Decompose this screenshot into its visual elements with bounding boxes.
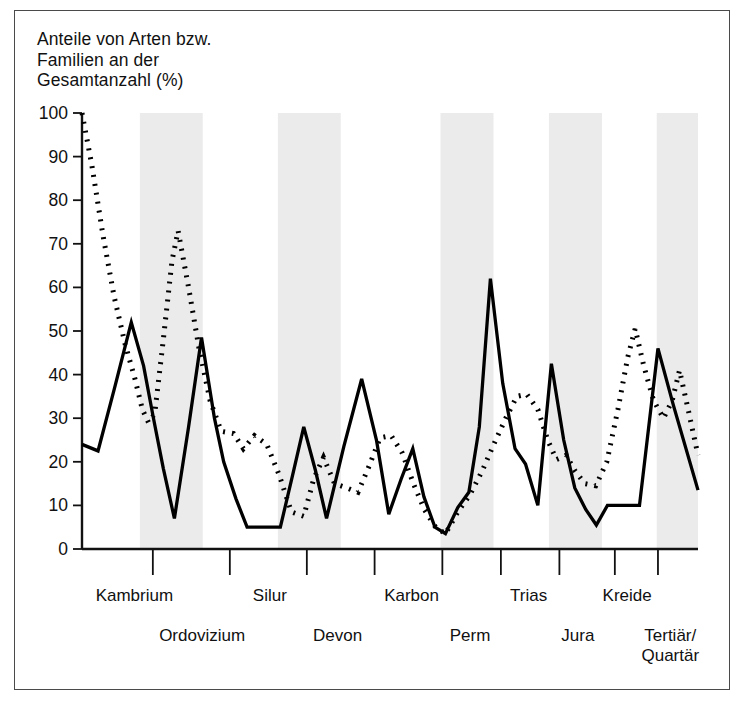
y-tick-label-100: 100: [39, 103, 68, 123]
y-tick-label-50: 50: [49, 321, 69, 341]
y-tick-label-0: 0: [58, 539, 68, 559]
period-label-devon: Devon: [313, 626, 362, 645]
period-shade-band-1: [278, 113, 341, 549]
y-tick-label-60: 60: [49, 277, 69, 297]
period-label-ordovizium: Ordovizium: [159, 626, 245, 645]
extinction-line-chart: 0102030405060708090100KambriumSilurKarbo…: [15, 11, 731, 691]
period-shade-band-4: [657, 113, 698, 549]
y-tick-label-40: 40: [49, 365, 69, 385]
y-tick-label-80: 80: [49, 190, 69, 210]
y-tick-label-10: 10: [49, 495, 69, 515]
y-tick-label-90: 90: [49, 147, 69, 167]
period-label-silur: Silur: [253, 586, 287, 605]
chart-plot-area: 0102030405060708090100KambriumSilurKarbo…: [15, 11, 731, 691]
period-shade-band-0: [140, 113, 203, 549]
figure-frame: Anteile von Arten bzw. Familien an der G…: [14, 10, 730, 690]
period-label-kreide: Kreide: [603, 586, 652, 605]
period-label-karbon: Karbon: [384, 586, 439, 605]
y-tick-label-70: 70: [49, 234, 69, 254]
period-label-trias: Trias: [510, 586, 547, 605]
period-label-perm: Perm: [450, 626, 491, 645]
period-label-kambrium: Kambrium: [96, 586, 173, 605]
period-label-jura: Jura: [561, 626, 595, 645]
y-tick-label-20: 20: [49, 452, 69, 472]
period-label-tertir: Tertiär/Quartär: [641, 626, 699, 665]
y-tick-label-30: 30: [49, 408, 69, 428]
